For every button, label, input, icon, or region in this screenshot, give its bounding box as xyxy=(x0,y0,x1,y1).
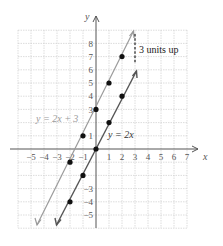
svg-text:5: 5 xyxy=(159,152,164,162)
svg-text:1: 1 xyxy=(107,152,112,162)
svg-text:−1: −1 xyxy=(78,152,88,162)
shift-label: 3 units up xyxy=(139,44,178,55)
svg-text:8: 8 xyxy=(89,39,94,49)
svg-text:5: 5 xyxy=(89,78,94,88)
svg-text:4: 4 xyxy=(89,91,94,101)
line-y-2x-plus-3 xyxy=(35,31,134,225)
svg-text:−5: −5 xyxy=(26,152,36,162)
svg-text:3: 3 xyxy=(133,152,138,162)
graph: x y −5 −4 −3 −2 −1 1 2 3 4 5 6 7 8 7 6 5… xyxy=(0,0,223,246)
svg-text:2: 2 xyxy=(120,152,125,162)
svg-text:6: 6 xyxy=(172,152,177,162)
svg-text:6: 6 xyxy=(89,65,94,75)
svg-text:7: 7 xyxy=(185,152,190,162)
svg-text:1: 1 xyxy=(89,131,94,141)
svg-text:−3: −3 xyxy=(52,152,62,162)
svg-text:−3: −3 xyxy=(83,184,93,194)
y-axis-label: y xyxy=(84,11,90,22)
equation-label-y-2x: y = 2x xyxy=(107,129,134,140)
svg-text:−5: −5 xyxy=(83,210,93,220)
svg-text:−4: −4 xyxy=(39,152,49,162)
x-tick-labels: −5 −4 −3 −2 −1 1 2 3 4 5 6 7 xyxy=(26,152,190,162)
equation-label-y-2x-plus-3: y = 2x + 3 xyxy=(35,113,78,124)
svg-text:−4: −4 xyxy=(83,197,93,207)
grid xyxy=(18,30,187,228)
x-axis-label: x xyxy=(202,151,208,162)
svg-text:7: 7 xyxy=(89,52,94,62)
svg-text:4: 4 xyxy=(146,152,151,162)
